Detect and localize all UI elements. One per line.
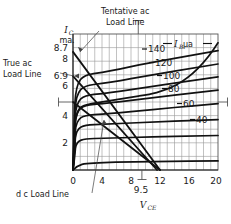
- true-ac-label-line2: Load Line: [3, 70, 41, 79]
- xtick-20: 20: [210, 176, 222, 186]
- marker-9-5-label: 9.5: [134, 185, 148, 195]
- figure-container: 8.7 8 6.9 6 4 2 0 4 8 12 16 20 9.5 I C m…: [0, 0, 231, 224]
- ytick-0: 0: [70, 176, 76, 186]
- legend-ib-unit: µa: [183, 40, 193, 49]
- curve-label-140: 140: [148, 44, 165, 54]
- xtick-4: 4: [99, 176, 105, 186]
- ytick-8: 8: [62, 54, 68, 64]
- y-axis-symbol-sub: C: [69, 29, 74, 36]
- ytick-4: 4: [62, 111, 68, 121]
- dc-load-line-label: d c Load Line: [16, 190, 69, 199]
- xtick-16: 16: [183, 176, 195, 186]
- ytick-6-9: 6.9: [54, 71, 69, 81]
- curve-label-60: 60: [183, 99, 195, 109]
- true-ac-label-line1: True ac: [2, 59, 32, 68]
- y-axis-unit: ma.: [59, 36, 74, 45]
- y-axis-symbol: I: [63, 25, 68, 35]
- curve-label-80: 80: [168, 84, 180, 94]
- legend-ib-symbol: I: [173, 39, 178, 49]
- ytick-6: 6: [62, 81, 68, 91]
- curve-label-100: 100: [163, 71, 180, 81]
- tentative-ac-label-line1: Tentative ac: [100, 7, 149, 16]
- characteristic-curve-chart: 8.7 8 6.9 6 4 2 0 4 8 12 16 20 9.5 I C m…: [0, 0, 231, 224]
- x-axis-symbol-sub: CE: [148, 204, 158, 211]
- curve-label-120: 120: [155, 58, 172, 68]
- curve-label-40: 40: [196, 115, 208, 125]
- tentative-ac-label-line2: Load Line: [106, 18, 144, 27]
- ytick-2: 2: [62, 138, 68, 148]
- xtick-12: 12: [154, 176, 165, 186]
